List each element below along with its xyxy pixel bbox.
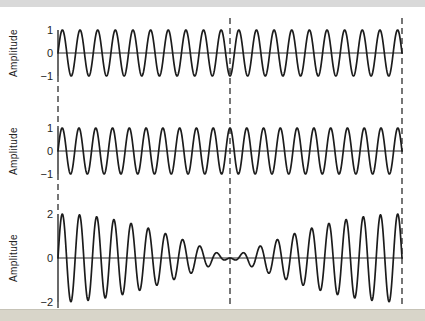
ytick-top-pos1: 1 xyxy=(27,24,53,36)
y-axis-label-bottom: Amplitude xyxy=(8,234,19,282)
ytick-middle-zero: 0 xyxy=(27,145,53,157)
ytick-bottom-zero: 0 xyxy=(27,252,53,264)
waveforms-plot xyxy=(0,0,425,321)
ytick-middle-neg1: −1 xyxy=(27,168,53,180)
ytick-top-zero: 0 xyxy=(27,47,53,59)
ytick-middle-pos1: 1 xyxy=(27,122,53,134)
ytick-bottom-pos2: 2 xyxy=(27,208,53,220)
ytick-bottom-neg2: −2 xyxy=(27,296,53,308)
ytick-top-neg1: −1 xyxy=(27,70,53,82)
beats-figure: Amplitude Amplitude Amplitude 1 0 −1 1 0… xyxy=(0,0,425,321)
y-axis-label-middle: Amplitude xyxy=(8,127,19,175)
y-axis-label-top: Amplitude xyxy=(8,29,19,77)
